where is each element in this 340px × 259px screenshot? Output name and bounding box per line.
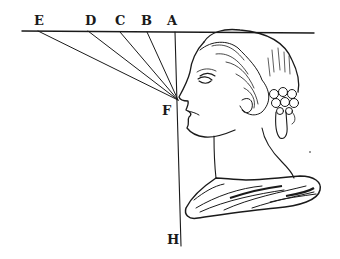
label-f: F [162, 104, 171, 117]
face-profile-line [179, 42, 235, 137]
drapery-folds [194, 184, 316, 212]
ink-speck [309, 151, 311, 153]
engraving-figure: E D C B A F H [0, 0, 340, 259]
label-a: A [167, 14, 177, 27]
figure-drawing [0, 0, 340, 259]
horizon-line [22, 31, 314, 33]
neck-front [214, 136, 216, 178]
drapery-outline [186, 176, 321, 218]
hair-strands [212, 45, 258, 108]
sight-line-b [147, 32, 178, 100]
sight-lines [38, 31, 178, 100]
earring [292, 112, 295, 124]
back-hair-strands [268, 48, 290, 76]
draped-bust [186, 176, 321, 218]
head-profile [179, 30, 299, 179]
hair-bun-curls [270, 88, 299, 115]
eyebrow [197, 69, 216, 72]
vertical-line-a-h [175, 32, 181, 246]
hanging-lock [276, 112, 288, 139]
label-e: E [34, 14, 44, 27]
sight-line-e [38, 31, 178, 100]
sight-line-c [120, 32, 178, 100]
sight-line-d [88, 31, 178, 100]
label-h: H [167, 233, 179, 246]
label-c: C [115, 14, 125, 27]
label-b: B [141, 14, 152, 27]
label-d: D [85, 14, 96, 27]
eye [198, 73, 215, 83]
